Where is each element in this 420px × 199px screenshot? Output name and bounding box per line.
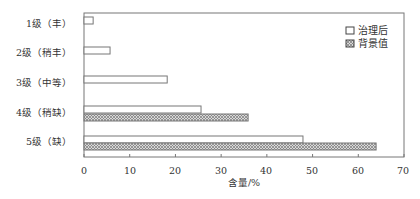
category-label-1: 1级（丰） xyxy=(26,18,72,29)
tick-label-0: 0 xyxy=(81,165,87,176)
legend-label: 治理后 xyxy=(358,24,388,36)
bar-chart: 1级（丰） 2级（稍丰） 3级（中等） 4级（稍缺） 5级（缺） 0 10 20… xyxy=(0,0,420,199)
x-axis-tick-labels: 0 10 20 30 40 50 60 70 xyxy=(81,165,409,176)
white-box-icon xyxy=(346,27,354,34)
legend-label: 背景值 xyxy=(358,37,388,49)
hatched-box-icon xyxy=(346,40,354,47)
category-label-2: 2级（稍丰） xyxy=(16,47,72,58)
tick-label-10: 10 xyxy=(124,165,136,176)
category-label-3: 3级（中等） xyxy=(16,77,72,88)
tick-label-50: 50 xyxy=(306,165,318,176)
bar-after-treatment xyxy=(84,76,167,83)
bar-after-treatment xyxy=(84,136,303,143)
bar-background-value xyxy=(84,143,376,150)
bar-after-treatment xyxy=(84,17,93,24)
tick-label-60: 60 xyxy=(352,165,364,176)
category-labels: 1级（丰） 2级（稍丰） 3级（中等） 4级（稍缺） 5级（缺） xyxy=(16,18,72,147)
category-label-4: 4级（稍缺） xyxy=(16,107,72,118)
bar-background-value xyxy=(84,114,248,121)
x-axis-title: 含量/% xyxy=(228,177,260,188)
category-label-5: 5级（缺） xyxy=(26,136,72,147)
tick-label-30: 30 xyxy=(215,165,227,176)
tick-label-70: 70 xyxy=(397,165,409,176)
bar-after-treatment xyxy=(84,47,110,54)
bar-after-treatment xyxy=(84,106,201,113)
plot-area xyxy=(84,13,404,157)
tick-label-40: 40 xyxy=(260,165,272,176)
tick-label-20: 20 xyxy=(169,165,181,176)
